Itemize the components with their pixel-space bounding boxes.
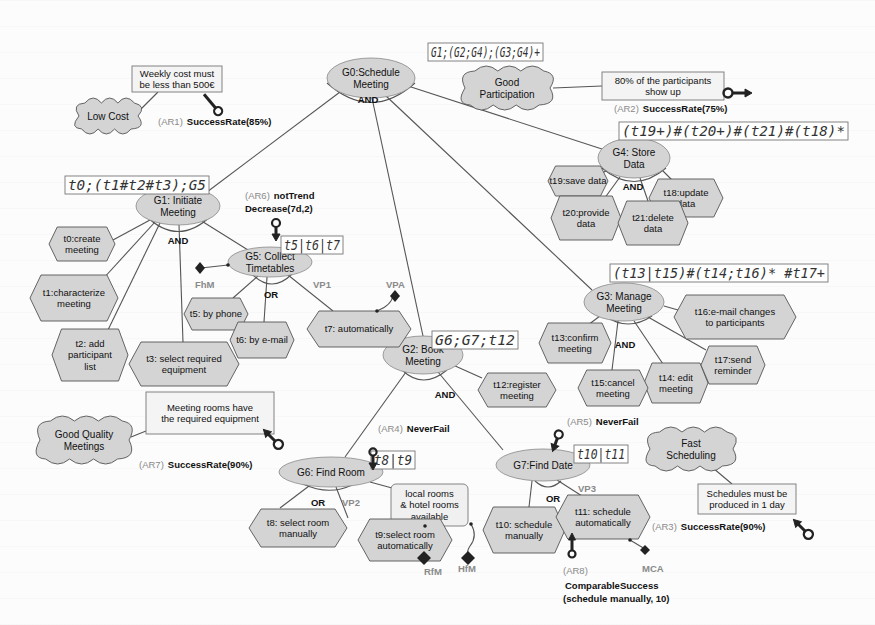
node-label: t7: automatically: [325, 323, 394, 334]
task-t9[interactable]: t9:select roomautomatically: [358, 519, 452, 561]
decomposition-label-or: OR: [264, 289, 278, 300]
node-label: t8: select room: [267, 517, 329, 528]
softgoal-fast-scheduling[interactable]: FastScheduling: [646, 427, 736, 471]
expression-text: t0;(t1#t2#t3);G5: [68, 177, 206, 193]
requirement-rule-cont: Decrease(7d,2): [245, 203, 313, 214]
node-label: Meeting: [405, 356, 441, 367]
expression-text: t10|t11: [577, 446, 625, 463]
task-t3[interactable]: t3: select requiredequipment: [129, 342, 239, 386]
runtime-expression-g0: G1;(G2;G4);(G3;G4)+: [428, 43, 543, 61]
requirement-text: (AR6)notTrend: [245, 190, 315, 201]
constraint-schedules-1day: Schedules must beproduced in 1 day: [698, 484, 796, 514]
node-label: manually: [279, 528, 317, 539]
node-label: Good: [495, 77, 519, 88]
node-label: Meetings: [64, 441, 105, 452]
node-label: Timetables: [246, 263, 295, 274]
decomposition-label-or: OR: [311, 497, 325, 508]
node-label: Weekly cost must: [140, 68, 215, 79]
goal-g6[interactable]: G6: Find Room: [279, 457, 383, 487]
task-t11[interactable]: t11: scheduleautomatically: [556, 495, 650, 539]
runtime-expression-g5: t5|t6|t7: [281, 236, 343, 254]
task-t0[interactable]: t0:createmeeting: [49, 227, 115, 261]
node-label: Meeting rooms have: [167, 402, 253, 413]
node-label: t0:create: [64, 233, 101, 244]
task-t20[interactable]: t20:providedata: [551, 196, 621, 240]
task-t10[interactable]: t10: schedulemanually: [483, 507, 565, 553]
goal-g4[interactable]: G4: StoreData: [598, 138, 670, 178]
node-label: Schedules must be: [707, 488, 788, 499]
requirement-rule-args: (schedule manually, 10): [563, 593, 669, 604]
node-label: meeting: [596, 388, 630, 399]
task-t21[interactable]: t21:deletedata: [618, 201, 688, 245]
node-label: t16:e-mail changes: [695, 306, 776, 317]
node-label: Data: [623, 159, 645, 170]
node-label: meeting: [659, 383, 693, 394]
task-t13[interactable]: t13:confirmmeeting: [539, 323, 611, 363]
node-label: produced in 1 day: [709, 499, 785, 510]
constraint-weekly-cost: Weekly cost mustbe less than 500€: [132, 66, 222, 92]
node-label: meeting: [500, 390, 534, 401]
node-label: 80% of the participants: [615, 75, 712, 86]
node-label: t3: select required: [146, 353, 222, 364]
requirement-ar5: (AR5)NeverFail: [567, 416, 639, 427]
node-label: data: [644, 223, 663, 234]
task-t12[interactable]: t12:registermeeting: [478, 373, 556, 407]
node-label: t20:provide: [562, 207, 609, 218]
task-t16[interactable]: t16:e-mail changesto participants: [674, 295, 796, 339]
node-label: t13:confirm: [552, 332, 599, 343]
constraint-rooms-equipment: Meeting rooms havethe required equipment: [146, 392, 274, 434]
node-label: participant: [68, 349, 112, 360]
requirement-ar6: (AR6)notTrendDecrease(7d,2): [245, 190, 315, 214]
node-label: t6: by e-mail: [236, 334, 288, 345]
node-label: t10: schedule: [496, 519, 553, 530]
note-label: & hotel rooms: [400, 499, 459, 510]
node-label: G1: Initiate: [154, 195, 203, 206]
pin-icon-ar2: [724, 89, 753, 98]
node-label: meeting: [57, 298, 91, 309]
requirement-ar7: (AR7)SuccessRate(90%): [139, 459, 252, 470]
task-t8[interactable]: t8: select roommanually: [249, 509, 347, 547]
decomposition-label-and: AND: [358, 94, 379, 105]
note-label: local rooms: [405, 488, 454, 499]
goal-g3[interactable]: G3: ManageMeeting: [584, 283, 664, 321]
task-t2[interactable]: t2: addparticipantlist: [52, 329, 128, 381]
node-label: manually: [505, 530, 543, 541]
node-label: Meeting: [353, 79, 389, 90]
node-label: Low Cost: [87, 111, 129, 122]
task-t1[interactable]: t1:characterizemeeting: [30, 275, 118, 321]
runtime-expression-g3: (t13|t15)#(t14;t16)* #t17+: [610, 264, 828, 282]
node-label: Scheduling: [666, 450, 715, 461]
pin-icon-ar6: [272, 219, 280, 241]
node-label: G3: Manage: [596, 291, 651, 302]
task-t19[interactable]: t19:save data: [548, 166, 608, 196]
task-t15[interactable]: t15:cancelmeeting: [578, 370, 648, 406]
task-t14[interactable]: t14: editmeeting: [644, 363, 708, 403]
decomposition-label-and: AND: [615, 339, 636, 350]
softgoal-low-cost[interactable]: Low Cost: [75, 98, 142, 134]
node-label: t15:cancel: [591, 377, 634, 388]
node-label: meeting: [65, 244, 99, 255]
node-label: t19:save data: [549, 175, 607, 186]
node-label: t11: schedule: [575, 506, 631, 517]
task-t7[interactable]: t7: automatically: [307, 311, 411, 347]
requirement-text: (AR3)SuccessRate(90%): [652, 521, 765, 532]
node-label: Participation: [479, 89, 534, 100]
node-label: t12:register: [493, 379, 541, 390]
node-label: to participants: [705, 317, 764, 328]
node-label: data: [577, 218, 596, 229]
node-label: G6: Find Room: [297, 467, 365, 478]
requirement-tag: (AR8): [563, 565, 588, 576]
softgoal-good-quality[interactable]: Good QualityMeetings: [36, 416, 132, 464]
node-label: meeting: [558, 343, 592, 354]
task-t17[interactable]: t17:sendreminder: [701, 346, 765, 384]
requirement-text: (AR1)SuccessRate(85%): [158, 116, 271, 127]
constraint-participants-show: 80% of the participantsshow up: [602, 72, 724, 100]
node-label: t17:send: [715, 354, 751, 365]
node-label: reminder: [714, 365, 752, 376]
requirement-ar1: (AR1)SuccessRate(85%): [158, 116, 271, 127]
variation-label-vp3: VP3: [578, 483, 596, 494]
softgoal-good-participation[interactable]: GoodParticipation: [461, 66, 553, 110]
goal-g0[interactable]: G0:ScheduleMeeting: [327, 58, 415, 98]
node-label: Meeting: [160, 207, 196, 218]
task-t6[interactable]: t6: by e-mail: [230, 322, 294, 358]
